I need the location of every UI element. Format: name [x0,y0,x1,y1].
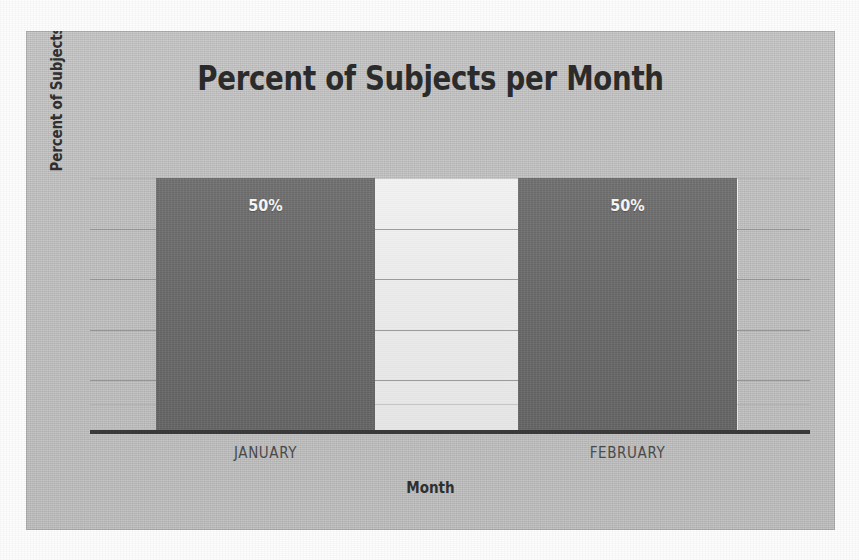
y-axis-title: Percent of Subjects [48,31,66,199]
category-label-february: FEBRUARY [518,444,737,462]
plot-area: 50% 50% [90,178,810,431]
scanned-page: Percent of Subjects per Month Percent of… [0,0,859,560]
category-label-january: JANUARY [156,444,375,462]
chart-frame: Percent of Subjects per Month Percent of… [26,31,835,530]
bar-january[interactable]: 50% [156,178,375,430]
bar-value-february: 50% [518,196,737,215]
bar-february[interactable]: 50% [518,178,737,430]
x-axis-title: Month [26,479,835,497]
bar-value-january: 50% [156,196,375,215]
x-axis-line [90,430,810,434]
chart-title: Percent of Subjects per Month [54,59,806,98]
